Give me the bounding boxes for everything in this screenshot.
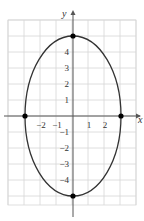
y-axis-arrow-icon [71, 10, 76, 15]
vertex-point [70, 33, 75, 38]
x-axis-label: x [137, 114, 143, 125]
vertex-point [22, 113, 27, 118]
y-axis-label: y [61, 8, 67, 19]
vertex-point [118, 113, 123, 118]
y-tick-label: −2 [59, 143, 69, 153]
y-tick-label: −3 [59, 159, 69, 169]
y-tick-label: 3 [65, 63, 70, 73]
vertex-point [70, 193, 75, 198]
y-tick-label: −4 [59, 175, 69, 185]
y-tick-label: 2 [65, 79, 70, 89]
x-tick-label: −2 [36, 120, 46, 130]
x-tick-label: 1 [87, 120, 92, 130]
x-tick-label: 2 [103, 120, 108, 130]
y-tick-label: −1 [59, 127, 69, 137]
grid [8, 20, 136, 205]
y-tick-label: 4 [65, 47, 70, 57]
y-tick-label: 1 [65, 95, 70, 105]
ellipse-graph: −2−1124321−1−2−3−4 x y [0, 0, 144, 221]
